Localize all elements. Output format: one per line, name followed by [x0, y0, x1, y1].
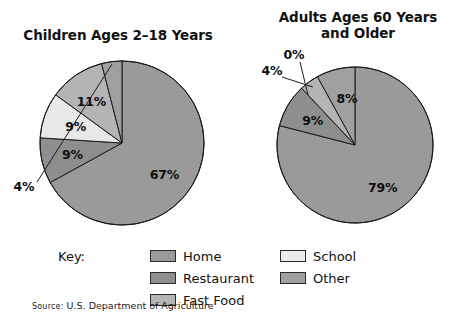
pie-label-children-home: 67%	[150, 167, 179, 182]
legend-swatch	[150, 272, 176, 284]
legend-swatch	[280, 272, 306, 284]
legend-swatch	[150, 250, 176, 262]
pie-label-adults-other: 8%	[337, 91, 358, 106]
legend-key-label: Key:	[58, 249, 85, 264]
pie-label-children-other: 4%	[14, 179, 35, 194]
figure-container: Children Ages 2–18 Years Adults Ages 60 …	[0, 0, 470, 321]
legend-item: School	[280, 246, 356, 266]
legend-item: Home	[150, 246, 254, 266]
legend-column-2: SchoolOther	[280, 246, 356, 290]
label-leader-line	[282, 77, 313, 87]
pie-label-adults-school: 0%	[284, 47, 305, 62]
pie-label-children-restaurant: 9%	[62, 147, 83, 162]
legend-swatch	[280, 250, 306, 262]
legend-label: Other	[313, 271, 350, 286]
pie-label-adults-restaurant: 9%	[302, 112, 323, 127]
pie-label-adults-home: 79%	[368, 179, 397, 194]
source-note: Source: U.S. Department of Agriculture	[32, 300, 214, 311]
pie-label-children-school: 9%	[65, 119, 86, 134]
pie-label-children-fastfood: 11%	[77, 93, 106, 108]
source-prefix: Source:	[32, 302, 64, 311]
legend-label: Restaurant	[183, 271, 254, 286]
legend-item: Restaurant	[150, 268, 254, 288]
legend-label: Home	[183, 249, 221, 264]
source-text: U.S. Department of Agriculture	[67, 300, 214, 311]
legend-label: School	[313, 249, 356, 264]
legend-item: Other	[280, 268, 356, 288]
pie-label-adults-fastfood: 4%	[262, 63, 283, 78]
